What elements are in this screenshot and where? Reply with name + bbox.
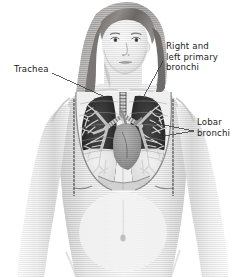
pupil-right — [136, 39, 138, 41]
abdomen-center-line — [123, 200, 124, 236]
label-primary-bronchi-line-1: Right and — [166, 41, 218, 52]
nostril-right — [128, 54, 130, 55]
label-trachea: Trachea — [14, 64, 49, 75]
label-trachea-line-1: Trachea — [14, 64, 49, 75]
label-lobar-bronchi-line-2: bronchi — [197, 128, 230, 139]
navel — [120, 235, 125, 242]
respiratory-system-figure: Trachea Right and left primary bronchi L… — [0, 0, 247, 277]
label-primary-bronchi: Right and left primary bronchi — [166, 41, 218, 73]
label-primary-bronchi-line-2: left primary — [166, 52, 218, 63]
nostril-left — [122, 54, 124, 55]
pupil-left — [115, 39, 117, 41]
label-primary-bronchi-line-3: bronchi — [166, 62, 218, 73]
label-lobar-bronchi: Lobar bronchi — [197, 117, 230, 138]
label-lobar-bronchi-line-1: Lobar — [197, 117, 230, 128]
